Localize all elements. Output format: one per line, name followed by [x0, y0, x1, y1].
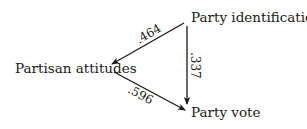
- node-partisan-attitudes: Partisan attitudes: [15, 60, 137, 76]
- diagram-svg: Party identification Partisan attitudes …: [0, 0, 307, 129]
- node-party-identification: Party identification: [191, 9, 307, 25]
- coefficient-label-596: .596: [126, 82, 156, 107]
- node-party-vote: Party vote: [191, 104, 261, 120]
- path-diagram: Party identification Partisan attitudes …: [0, 0, 307, 129]
- coefficient-label-337: .337: [188, 52, 202, 79]
